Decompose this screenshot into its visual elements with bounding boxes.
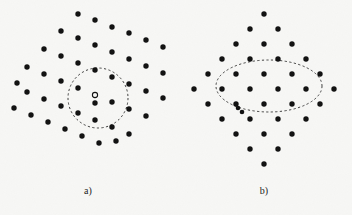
atom	[303, 116, 308, 121]
atom	[11, 105, 16, 110]
atom	[79, 133, 84, 138]
interstitial-atom	[240, 110, 245, 115]
atom	[303, 86, 308, 91]
atom	[126, 81, 131, 86]
atom	[247, 146, 252, 151]
atom	[28, 112, 33, 117]
atom	[92, 100, 97, 105]
atom	[14, 80, 19, 85]
atom	[24, 89, 29, 94]
atom	[233, 131, 238, 136]
atom	[75, 60, 80, 65]
atom	[261, 131, 266, 136]
panel-b-caption: b)	[176, 185, 352, 196]
panel-a: a)	[0, 0, 176, 215]
atom	[92, 42, 97, 47]
atom	[143, 63, 148, 68]
atom	[160, 44, 165, 49]
atom	[113, 138, 118, 143]
atom	[275, 116, 280, 121]
atom	[41, 71, 46, 76]
atom	[126, 106, 131, 111]
atom	[275, 86, 280, 91]
atom	[233, 41, 238, 46]
atom	[109, 24, 114, 29]
atom	[58, 28, 63, 33]
atom	[143, 113, 148, 118]
interstitial-atom	[236, 106, 241, 111]
atom	[205, 101, 210, 106]
atom	[289, 131, 294, 136]
atom	[247, 86, 252, 91]
atom	[62, 126, 67, 131]
atom	[247, 26, 252, 31]
atom	[143, 37, 148, 42]
atom	[109, 99, 114, 104]
atom	[24, 64, 29, 69]
atom	[247, 116, 252, 121]
atom	[126, 56, 131, 61]
atom	[261, 71, 266, 76]
atom	[58, 53, 63, 58]
vacancy-marker	[92, 92, 97, 97]
atom	[109, 124, 114, 129]
atom	[331, 86, 336, 91]
atom	[75, 35, 80, 40]
atom	[109, 49, 114, 54]
atom	[303, 56, 308, 61]
atom	[75, 85, 80, 90]
atom	[261, 101, 266, 106]
atom	[289, 101, 294, 106]
atom	[275, 146, 280, 151]
atom	[289, 41, 294, 46]
atom	[219, 116, 224, 121]
atom	[160, 95, 165, 100]
atom	[41, 96, 46, 101]
panel-b-lattice	[176, 0, 352, 215]
atom	[191, 86, 196, 91]
atom	[41, 46, 46, 51]
atom	[233, 71, 238, 76]
panel-a-lattice	[0, 0, 176, 215]
atom	[205, 71, 210, 76]
lattice-defect-figure: a) b)	[0, 0, 352, 215]
atom	[92, 67, 97, 72]
atom	[219, 86, 224, 91]
atom	[289, 71, 294, 76]
atom	[45, 119, 50, 124]
atom	[261, 11, 266, 16]
panel-a-caption: a)	[0, 185, 176, 196]
atom	[160, 70, 165, 75]
atom	[75, 11, 80, 16]
atom	[261, 161, 266, 166]
atom	[92, 17, 97, 22]
defect-region-a	[68, 68, 128, 128]
atom	[58, 103, 63, 108]
atom	[75, 110, 80, 115]
atom	[58, 78, 63, 83]
atom	[126, 30, 131, 35]
atom	[143, 88, 148, 93]
atom	[261, 41, 266, 46]
atom	[92, 117, 97, 122]
atom	[317, 101, 322, 106]
atom	[126, 131, 131, 136]
atom	[275, 56, 280, 61]
panel-b: b)	[176, 0, 352, 215]
atom	[109, 74, 114, 79]
atom	[219, 56, 224, 61]
defect-region-b	[216, 60, 322, 112]
atom	[247, 56, 252, 61]
atom	[275, 26, 280, 31]
atom	[317, 71, 322, 76]
atom	[96, 140, 101, 145]
